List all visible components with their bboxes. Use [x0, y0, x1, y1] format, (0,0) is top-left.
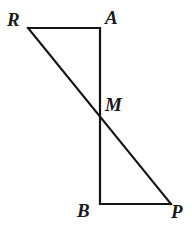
vertex-label-M: M	[105, 95, 122, 114]
vertex-label-R: R	[7, 10, 20, 29]
vertex-label-B: B	[77, 201, 90, 220]
geometry-canvas	[0, 0, 192, 233]
geometry-figure: R A M B P	[0, 0, 192, 233]
vertex-label-P: P	[171, 202, 183, 221]
vertex-label-A: A	[105, 8, 118, 27]
